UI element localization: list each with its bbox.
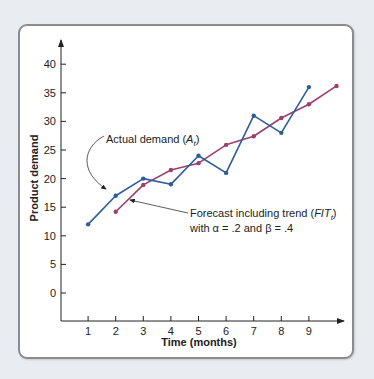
y-tick-label: 35 (44, 87, 56, 99)
data-point (307, 85, 311, 89)
data-point (279, 131, 283, 135)
y-ticks: 0510152025303540 (44, 58, 66, 299)
series-forecast (114, 84, 339, 214)
x-tick-label: 7 (251, 325, 257, 337)
y-axis-title: Product demand (28, 135, 40, 222)
x-tick-label: 3 (140, 325, 146, 337)
data-point (196, 154, 200, 158)
data-point (114, 194, 118, 198)
data-point (169, 168, 173, 172)
data-point (169, 182, 173, 186)
data-point (334, 84, 338, 88)
y-tick-label: 40 (44, 58, 56, 70)
y-tick-label: 15 (44, 201, 56, 213)
x-tick-label: 9 (306, 325, 312, 337)
y-tick-label: 5 (50, 258, 56, 270)
line-chart: 0510152025303540 123456789 Time (months)… (0, 0, 374, 379)
series-actual (86, 85, 311, 227)
series-line (116, 86, 337, 212)
y-tick-label: 25 (44, 144, 56, 156)
annotation-forecast-params: with α = .2 and β = .4 (189, 222, 293, 234)
data-point (252, 113, 256, 117)
data-point (252, 134, 256, 138)
data-point (196, 161, 200, 165)
y-tick-label: 10 (44, 230, 56, 242)
annotation-forecast-arrow (130, 200, 188, 213)
annotation-forecast: Forecast including trend (FITt) (190, 207, 337, 222)
x-tick-label: 1 (85, 325, 91, 337)
x-tick-label: 8 (278, 325, 284, 337)
annotation-actual-demand: Actual demand (At) (106, 133, 199, 148)
x-axis-title: Time (months) (161, 336, 237, 348)
data-point (141, 183, 145, 187)
x-tick-label: 2 (113, 325, 119, 337)
y-tick-label: 20 (44, 173, 56, 185)
data-point (224, 143, 228, 147)
data-point (279, 116, 283, 120)
annotation-actual-arrow (87, 136, 106, 189)
data-point (141, 176, 145, 180)
data-point (307, 102, 311, 106)
data-point (224, 171, 228, 175)
y-tick-label: 30 (44, 115, 56, 127)
data-point (114, 210, 118, 214)
y-tick-label: 0 (50, 287, 56, 299)
data-point (86, 222, 90, 226)
x-ticks: 123456789 (85, 316, 312, 337)
